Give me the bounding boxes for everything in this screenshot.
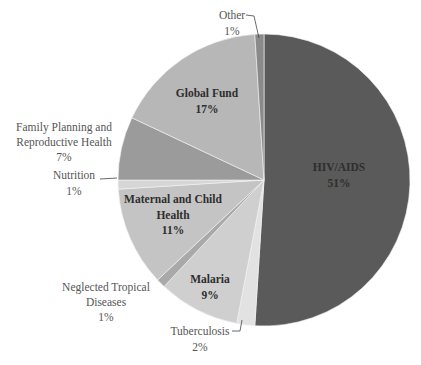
svg-text:2%: 2% bbox=[192, 341, 208, 353]
svg-text:1%: 1% bbox=[224, 25, 240, 37]
pie-slices bbox=[118, 34, 410, 326]
svg-text:1%: 1% bbox=[66, 185, 82, 197]
svg-text:Malaria: Malaria bbox=[190, 273, 230, 285]
pie-chart: Other 1% Global Fund 17% Family Planning… bbox=[0, 0, 421, 365]
leader-line-nutrition bbox=[100, 178, 117, 179]
svg-text:7%: 7% bbox=[56, 151, 72, 163]
svg-text:Neglected Tropical: Neglected Tropical bbox=[62, 281, 150, 294]
svg-text:Health: Health bbox=[156, 209, 190, 221]
label-nutrition: Nutrition 1% bbox=[53, 169, 95, 197]
svg-text:Nutrition: Nutrition bbox=[53, 169, 95, 181]
svg-text:Family Planning and: Family Planning and bbox=[16, 121, 112, 134]
svg-text:Maternal and Child: Maternal and Child bbox=[124, 193, 222, 205]
svg-text:17%: 17% bbox=[196, 103, 219, 115]
svg-text:Global Fund: Global Fund bbox=[176, 87, 239, 99]
svg-text:11%: 11% bbox=[162, 224, 184, 236]
svg-text:HIV/AIDS: HIV/AIDS bbox=[313, 161, 365, 173]
svg-text:Other: Other bbox=[219, 9, 245, 21]
svg-text:Diseases: Diseases bbox=[86, 296, 127, 308]
svg-text:9%: 9% bbox=[201, 289, 218, 301]
svg-text:Reproductive Health: Reproductive Health bbox=[16, 136, 112, 149]
label-other: Other 1% bbox=[219, 9, 245, 37]
svg-text:Tuberculosis: Tuberculosis bbox=[171, 325, 231, 337]
svg-text:1%: 1% bbox=[98, 311, 114, 323]
svg-text:51%: 51% bbox=[328, 177, 351, 189]
label-tuberculosis: Tuberculosis 2% bbox=[171, 325, 231, 353]
label-family-planning: Family Planning and Reproductive Health … bbox=[16, 121, 112, 163]
label-neglected-tropical-diseases: Neglected Tropical Diseases 1% bbox=[62, 281, 150, 323]
